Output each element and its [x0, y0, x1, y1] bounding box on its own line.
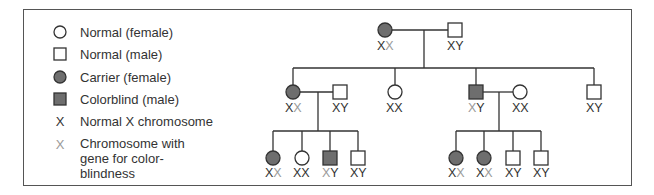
pedigree-symbols — [266, 23, 601, 165]
normal-female-symbol — [513, 85, 527, 99]
genotype-label: XX — [377, 39, 394, 53]
genotype-label: XX — [265, 166, 282, 180]
pedigree-lines — [273, 30, 594, 151]
genotype-label: XY — [533, 166, 550, 180]
normal-female-symbol — [388, 85, 402, 99]
pedigree-chart: XX XY XX XY XX XY XX XY XX XX XY XY XX X… — [0, 0, 654, 195]
genotype-label: XX — [448, 166, 465, 180]
genotype-label: XX — [476, 166, 493, 180]
carrier-female-symbol — [286, 85, 300, 99]
genotype-label: XY — [322, 166, 339, 180]
genotype-label: XY — [447, 39, 464, 53]
genotype-label: XY — [468, 101, 485, 115]
normal-male-symbol — [534, 151, 548, 165]
normal-male-symbol — [351, 151, 365, 165]
colorblind-male-symbol — [323, 151, 337, 165]
genotype-labels: XX XY XX XY XX XY XX XY XX XX XY XY XX X… — [265, 39, 603, 180]
carrier-female-symbol — [378, 23, 392, 37]
carrier-female-symbol — [477, 151, 491, 165]
carrier-female-symbol — [449, 151, 463, 165]
genotype-label: XY — [350, 166, 367, 180]
genotype-label: XX — [386, 101, 403, 115]
normal-female-symbol — [295, 151, 309, 165]
normal-male-symbol — [587, 85, 601, 99]
genotype-label: XX — [285, 101, 302, 115]
genotype-label: XX — [293, 166, 310, 180]
colorblind-male-symbol — [469, 85, 483, 99]
normal-male-symbol — [506, 151, 520, 165]
genotype-label: XY — [332, 101, 349, 115]
carrier-female-symbol — [266, 151, 280, 165]
normal-male-symbol — [333, 85, 347, 99]
genotype-label: XX — [512, 101, 529, 115]
normal-male-symbol — [448, 23, 462, 37]
genotype-label: XY — [586, 101, 603, 115]
genotype-label: XY — [505, 166, 522, 180]
